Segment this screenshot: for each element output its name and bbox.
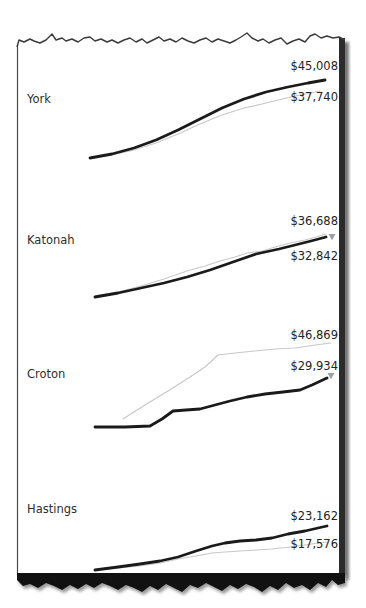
value-label-york-primary: $45,008 bbox=[290, 60, 338, 73]
value-label-croton-primary: $29,934 bbox=[290, 360, 338, 373]
value-label-york-reference: $37,740 bbox=[290, 91, 338, 104]
value-label-katonah-primary: $32,842 bbox=[290, 250, 338, 263]
marker-triangle-down-icon-katonah bbox=[329, 234, 336, 240]
sparkline-york-reference bbox=[90, 91, 320, 158]
value-label-hastings-reference: $17,576 bbox=[290, 538, 338, 551]
value-label-katonah-reference: $36,688 bbox=[290, 215, 338, 228]
row-label-york: York bbox=[27, 93, 51, 106]
row-label-hastings: Hastings bbox=[27, 503, 77, 516]
value-label-croton-reference: $46,869 bbox=[290, 329, 338, 342]
sparkline-croton-reference bbox=[123, 343, 331, 419]
paper-edge-right bbox=[339, 38, 345, 578]
sparkline-katonah-primary bbox=[95, 237, 326, 297]
row-label-katonah: Katonah bbox=[27, 234, 75, 247]
marker-triangle-down-icon-croton bbox=[328, 373, 335, 379]
torn-edge-top bbox=[17, 33, 345, 47]
torn-paper-report: York Katonah Croton Hastings $45,008 $37… bbox=[0, 0, 366, 608]
sparkline-katonah-reference bbox=[95, 234, 326, 296]
value-label-hastings-primary: $23,162 bbox=[290, 510, 338, 523]
sparklines-group bbox=[90, 80, 336, 570]
row-label-croton: Croton bbox=[27, 368, 65, 381]
sparkline-croton-primary bbox=[95, 378, 327, 427]
